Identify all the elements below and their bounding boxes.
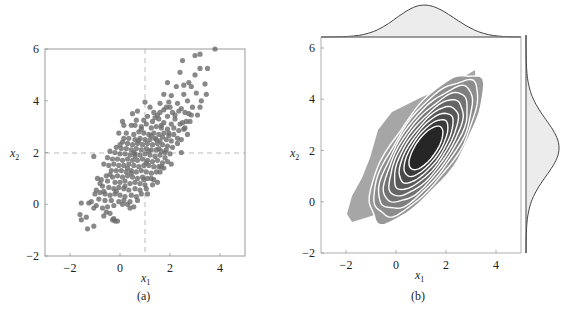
scatter-point bbox=[91, 154, 96, 159]
scatter-point bbox=[171, 132, 176, 137]
scatter-point bbox=[131, 132, 136, 137]
scatter-point bbox=[139, 168, 144, 173]
scatter-point bbox=[105, 155, 110, 160]
scatter-point bbox=[79, 217, 84, 222]
scatter-point bbox=[176, 128, 181, 133]
scatter-point bbox=[179, 137, 184, 142]
marginal-x-density bbox=[321, 5, 521, 37]
scatter-point bbox=[155, 180, 160, 185]
scatter-point bbox=[126, 136, 131, 141]
scatter-point bbox=[164, 105, 169, 110]
scatter-point bbox=[114, 189, 119, 194]
scatter-point bbox=[189, 84, 194, 89]
scatter-point bbox=[181, 83, 186, 88]
scatter-point bbox=[109, 198, 114, 203]
scatter-point bbox=[194, 90, 199, 95]
marginal-y-density bbox=[526, 35, 559, 253]
x-tick-label: 2 bbox=[167, 261, 173, 275]
scatter-point bbox=[126, 187, 131, 192]
scatter-point bbox=[101, 189, 106, 194]
x-tick-label: −2 bbox=[340, 258, 353, 272]
scatter-point bbox=[195, 112, 200, 117]
scatter-point bbox=[96, 197, 101, 202]
scatter-point bbox=[117, 151, 122, 156]
scatter-point bbox=[117, 193, 122, 198]
scatter-point bbox=[205, 66, 210, 71]
y-tick-label: 6 bbox=[33, 42, 39, 56]
scatter-point bbox=[129, 171, 134, 176]
y-axis-label-a: x2 bbox=[9, 146, 19, 162]
scatter-point bbox=[179, 150, 184, 155]
scatter-point bbox=[149, 125, 154, 130]
scatter-point bbox=[176, 109, 181, 114]
panel-b-kde: −20246420−2 x2 x1 (b) bbox=[289, 5, 559, 303]
y-tick-label: 0 bbox=[33, 197, 39, 211]
scatter-point bbox=[180, 58, 185, 63]
scatter-point bbox=[116, 163, 121, 168]
scatter-point bbox=[107, 149, 112, 154]
figure: −20246420−2 x2 x1 (a) −20246420−2 x2 x1 … bbox=[0, 0, 568, 312]
scatter-point bbox=[106, 185, 111, 190]
x-tick-label: 4 bbox=[217, 261, 223, 275]
scatter-point bbox=[197, 105, 202, 110]
scatter-point bbox=[95, 176, 100, 181]
scatter-point bbox=[197, 52, 202, 57]
scatter-point bbox=[120, 158, 125, 163]
scatter-point bbox=[197, 66, 202, 71]
scatter-point bbox=[122, 178, 127, 183]
x-tick-label: 4 bbox=[493, 258, 499, 272]
scatter-point bbox=[132, 186, 137, 191]
scatter-point bbox=[145, 141, 150, 146]
x-axis-label-a: x1 bbox=[140, 271, 150, 287]
scatter-point bbox=[122, 151, 127, 156]
scatter-point bbox=[140, 156, 145, 161]
y-tick-label: 4 bbox=[33, 94, 39, 108]
scatter-point bbox=[130, 111, 135, 116]
scatter-point bbox=[115, 156, 120, 161]
scatter-point bbox=[154, 137, 159, 142]
y-tick-label: 0 bbox=[309, 195, 315, 209]
scatter-point bbox=[156, 146, 161, 151]
scatter-point bbox=[157, 110, 162, 115]
scatter-point bbox=[149, 176, 154, 181]
y-tick-label: −2 bbox=[26, 249, 39, 263]
scatter-point bbox=[105, 178, 110, 183]
scatter-point bbox=[129, 193, 134, 198]
scatter-point bbox=[149, 171, 154, 176]
scatter-point bbox=[112, 180, 117, 185]
scatter-point bbox=[127, 181, 132, 186]
scatter-point bbox=[180, 120, 185, 125]
x-tick-label: −2 bbox=[64, 261, 77, 275]
scatter-point bbox=[111, 216, 116, 221]
scatter-point bbox=[181, 92, 186, 97]
scatter-point bbox=[169, 138, 174, 143]
scatter-point bbox=[159, 164, 164, 169]
scatter-point bbox=[139, 191, 144, 196]
scatter-point bbox=[131, 163, 136, 168]
scatter-point bbox=[117, 180, 122, 185]
scatter-point bbox=[190, 105, 195, 110]
scatter-point bbox=[117, 142, 122, 147]
scatter-point bbox=[192, 72, 197, 77]
scatter-point bbox=[149, 133, 154, 138]
scatter-point bbox=[101, 162, 106, 167]
scatter-point bbox=[114, 168, 119, 173]
scatter-point bbox=[144, 160, 149, 165]
scatter-point bbox=[84, 215, 89, 220]
y-tick-label: 4 bbox=[309, 92, 315, 106]
kde-contours bbox=[347, 70, 484, 225]
scatter-point bbox=[85, 226, 90, 231]
scatter-point bbox=[142, 99, 147, 104]
scatter-point bbox=[140, 142, 145, 147]
y-tick-label: −2 bbox=[302, 246, 315, 260]
scatter-point bbox=[139, 147, 144, 152]
x-tick-label: 0 bbox=[117, 261, 123, 275]
scatter-point bbox=[132, 180, 137, 185]
scatter-point bbox=[77, 212, 82, 217]
scatter-point bbox=[125, 156, 130, 161]
scatter-point bbox=[166, 131, 171, 136]
scatter-point bbox=[97, 181, 102, 186]
scatter-point bbox=[134, 118, 139, 123]
scatter-point bbox=[144, 169, 149, 174]
scatter-point bbox=[110, 156, 115, 161]
